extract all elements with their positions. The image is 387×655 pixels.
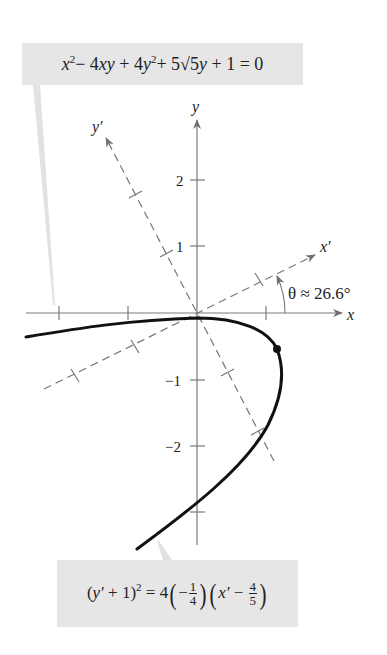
y-tick-2: 2 bbox=[176, 173, 184, 189]
fraction-four-fifths: 45 bbox=[249, 580, 258, 607]
y-axis: y 2 1 −1 −2 bbox=[165, 98, 205, 545]
angle-label: θ ≈ 26.6° bbox=[288, 284, 351, 303]
y-axis-label: y bbox=[190, 98, 200, 116]
vertex-point bbox=[273, 345, 281, 353]
y-tick-1: 1 bbox=[176, 239, 184, 255]
x-prime-label: x′ bbox=[319, 238, 331, 255]
rotation-angle-indicator: θ ≈ 26.6° bbox=[277, 276, 351, 313]
graph-canvas: x y 2 1 −1 −2 x′ y′ θ ≈ 26.6° bbox=[0, 0, 387, 655]
y-prime-label: y′ bbox=[90, 118, 103, 136]
top-callout-pointer bbox=[33, 85, 55, 305]
y-tick-neg2: −2 bbox=[165, 439, 181, 455]
standard-form-equation: (y′ + 1)2 = 4(−14)(x′ − 45) bbox=[87, 579, 268, 609]
x-axis: x bbox=[26, 306, 354, 323]
x-axis-label: x bbox=[346, 306, 354, 323]
y-tick-neg1: −1 bbox=[165, 373, 181, 389]
fraction-one-quarter: 14 bbox=[189, 580, 198, 607]
bottom-callout-pointer bbox=[157, 541, 172, 560]
standard-form-equation-box: (y′ + 1)2 = 4(−14)(x′ − 45) bbox=[57, 560, 298, 627]
parabola-curve bbox=[26, 318, 282, 549]
